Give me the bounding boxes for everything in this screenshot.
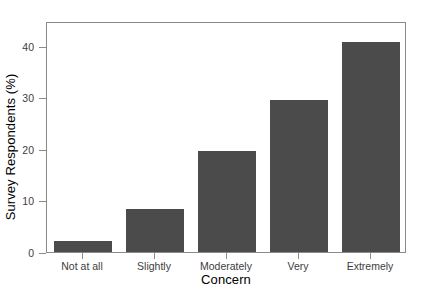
y-tick-label: 40 [4, 41, 34, 53]
y-tick-label: 30 [4, 92, 34, 104]
x-tick-mark [226, 253, 227, 259]
y-tick-mark [39, 253, 46, 254]
bar [270, 100, 328, 252]
y-tick-mark [39, 98, 46, 99]
x-tick-mark [370, 253, 371, 259]
y-tick-mark [39, 150, 46, 151]
y-tick-mark [39, 47, 46, 48]
x-tick-mark [82, 253, 83, 259]
y-tick-mark [39, 201, 46, 202]
bar-chart-figure: Survey Respondents (%) 010203040 Not at … [0, 0, 424, 294]
y-tick-label: 10 [4, 195, 34, 207]
x-tick-mark [154, 253, 155, 259]
bar-series [47, 23, 405, 252]
bar [126, 209, 184, 252]
y-tick-label: 0 [4, 247, 34, 259]
bar [198, 151, 256, 252]
bar [54, 241, 112, 252]
plot-area [46, 22, 406, 253]
x-tick-label: Extremely [325, 260, 415, 272]
x-tick-mark [298, 253, 299, 259]
x-axis-title: Concern [46, 272, 406, 287]
bar [342, 42, 400, 252]
y-tick-label: 20 [4, 144, 34, 156]
